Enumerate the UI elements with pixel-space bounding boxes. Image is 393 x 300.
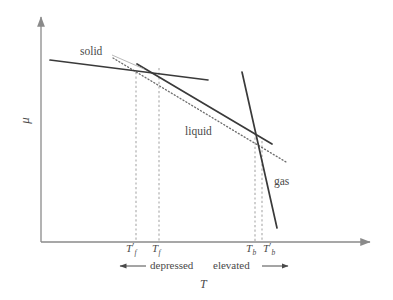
plot-canvas	[0, 0, 393, 300]
range-label-depressed: depressed	[150, 260, 193, 271]
tick-subscript: b	[252, 248, 256, 257]
droplines-group	[136, 68, 262, 242]
x-axis-label: T	[200, 278, 207, 290]
phase-label-liquid: liquid	[185, 126, 212, 138]
curve-gas-phase	[242, 72, 277, 228]
range-label-elevated: elevated	[213, 260, 250, 271]
tick-label-tf-prime: T′f	[126, 243, 136, 254]
tick-label-tb-prime: T′b	[263, 243, 275, 254]
curves-group	[50, 58, 286, 228]
phase-diagram-figure: μ T solid liquid gas T′f Tf Tb T′b depre…	[0, 0, 393, 300]
tick-subscript: f	[158, 248, 160, 257]
y-axis-label: μ	[18, 117, 31, 124]
phase-label-solid: solid	[80, 46, 102, 58]
curve-solid-phase	[50, 60, 208, 80]
tick-subscript: f	[135, 248, 137, 257]
tick-subscript: b	[272, 248, 276, 257]
phase-label-gas: gas	[274, 176, 289, 188]
tick-label-tb: Tb	[246, 243, 256, 254]
curve-liquid-depressed-dotted	[113, 58, 286, 162]
tick-label-tf: Tf	[152, 243, 160, 254]
